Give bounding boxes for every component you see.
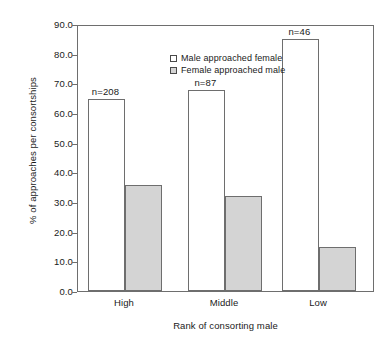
y-axis-tick-label: 90.0: [33, 20, 73, 30]
y-axis-tick-label: 60.0: [33, 109, 73, 119]
y-axis-tick-label: 30.0: [33, 198, 73, 208]
sample-size-label-middle: n=87: [167, 77, 244, 88]
x-axis-tick-label-high: High: [84, 297, 164, 308]
bar-middle-open: [188, 90, 225, 291]
x-axis-title: Rank of consorting male: [77, 320, 374, 331]
x-axis-tick-label-low: Low: [278, 297, 358, 308]
sample-size-label-low: n=46: [261, 26, 338, 37]
bar-high-open: [88, 99, 125, 291]
y-axis-tick-label: 10.0: [33, 257, 73, 267]
legend-swatch-open-icon: [170, 55, 177, 62]
y-axis-tick-label: 40.0: [33, 168, 73, 178]
y-axis-tick-mark: [72, 292, 77, 293]
legend-swatch-filled-icon: [170, 67, 177, 74]
legend-entry-female-approached-male: Female approached male: [170, 65, 285, 77]
y-axis-tick-label: 20.0: [33, 228, 73, 238]
bar-low-open: [282, 39, 319, 291]
bar-low-filled: [319, 247, 356, 291]
legend: Male approached female Female approached…: [170, 53, 285, 76]
bar-middle-filled: [225, 196, 262, 291]
legend-label-0: Male approached female: [181, 53, 282, 65]
y-axis-tick-label: 0.0: [33, 287, 73, 297]
sample-size-label-high: n=208: [67, 86, 144, 97]
plot-area: Male approached female Female approached…: [77, 25, 374, 292]
legend-entry-male-approached-female: Male approached female: [170, 53, 285, 65]
x-axis-tick-label-middle: Middle: [184, 297, 264, 308]
y-axis-title: % of approaches per consortships: [27, 26, 38, 276]
bar-high-filled: [125, 185, 162, 291]
bar-chart-figure: % of approaches per consortships 90.080.…: [0, 0, 388, 344]
y-axis-tick-label: 80.0: [33, 50, 73, 60]
y-axis-tick-label: 50.0: [33, 139, 73, 149]
legend-label-1: Female approached male: [181, 65, 285, 77]
